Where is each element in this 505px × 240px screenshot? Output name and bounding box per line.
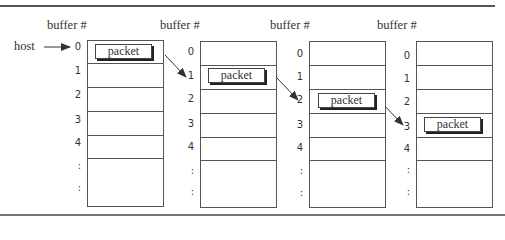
buffer-slot-4	[417, 138, 492, 161]
buffer-slot-2	[88, 88, 163, 112]
row-label: :	[182, 186, 194, 197]
buffer-slot-4	[88, 136, 163, 159]
row-label: 2	[291, 94, 303, 105]
row-label: 3	[182, 118, 194, 129]
buffer-slot-3	[201, 114, 276, 138]
row-label: 1	[291, 71, 303, 82]
row-label: 2	[182, 93, 194, 104]
buffer-box	[200, 41, 277, 208]
buffer-slot-3	[88, 112, 163, 136]
packet: packet	[424, 117, 481, 132]
packet: packet	[208, 68, 265, 83]
buffer-slot-4	[310, 138, 385, 161]
row-label: 0	[291, 48, 303, 59]
row-label: 3	[291, 119, 303, 130]
packet: packet	[95, 44, 152, 59]
buffer-slot-1	[310, 66, 385, 90]
row-label: :	[291, 165, 303, 176]
buffer-slot-0	[201, 42, 276, 66]
buffer-slot-2	[201, 90, 276, 114]
row-label: 1	[69, 65, 81, 76]
row-label: 4	[291, 142, 303, 153]
row-label: 0	[69, 41, 81, 52]
buffer-slot-3	[310, 114, 385, 138]
row-label: :	[291, 187, 303, 198]
row-label: :	[69, 182, 81, 193]
row-label: 1	[182, 70, 194, 81]
buffer-box	[309, 41, 386, 208]
buffer-slot-4	[201, 138, 276, 161]
row-label: :	[398, 186, 410, 197]
buffer-slot-1	[88, 64, 163, 88]
buffer-slot-0	[310, 42, 385, 66]
row-label: 2	[69, 89, 81, 100]
row-label: 2	[398, 96, 410, 107]
row-label: :	[69, 160, 81, 171]
row-label: 3	[69, 114, 81, 125]
row-label: :	[398, 164, 410, 175]
row-label: 4	[182, 141, 194, 152]
packet: packet	[318, 93, 375, 108]
row-label: :	[182, 165, 194, 176]
row-label: 3	[398, 121, 410, 132]
row-label: 0	[182, 46, 194, 57]
row-label: 4	[69, 137, 81, 148]
buffer-slot-1	[417, 66, 492, 90]
buffer-box	[87, 40, 164, 207]
buffer-slot-2	[417, 90, 492, 114]
row-label: 1	[398, 73, 410, 84]
row-label: 0	[398, 50, 410, 61]
buffer-slot-0	[417, 42, 492, 66]
row-label: 4	[398, 143, 410, 154]
